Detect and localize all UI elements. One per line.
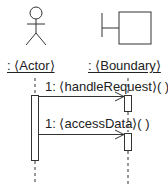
boundary-activation-bar-1 xyxy=(125,96,132,112)
message-label-2: 1: ⟨accessData⟩( ) xyxy=(45,117,150,130)
boundary-activation-bar-2 xyxy=(125,134,132,151)
actor-icon xyxy=(26,7,46,45)
boundary-icon xyxy=(102,12,151,44)
message-label-1: 1: ⟨handleRequest⟩( ) xyxy=(45,80,168,93)
actor-label: : ⟨Actor⟩ xyxy=(7,59,55,72)
actor-activation-bar xyxy=(32,96,39,161)
boundary-label: : ⟨Boundary⟩ xyxy=(88,59,161,72)
message-arrow-2 xyxy=(39,130,125,139)
